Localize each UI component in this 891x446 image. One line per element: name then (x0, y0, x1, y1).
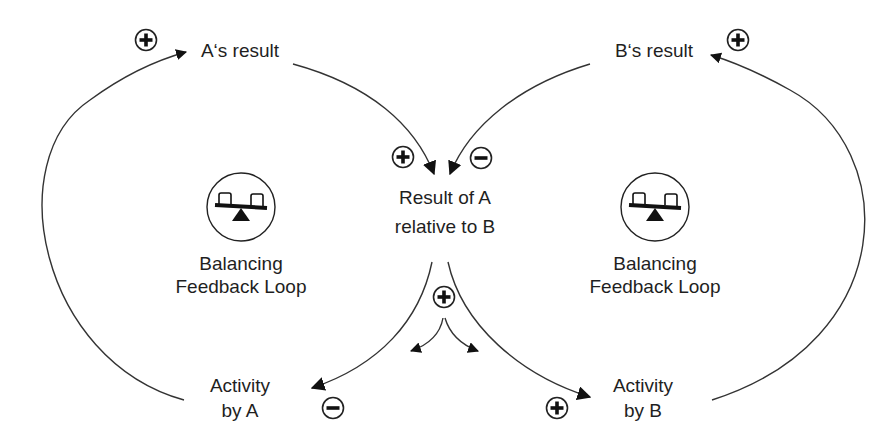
node-a-result: A‘s result (201, 40, 280, 61)
loop-left-line1: Balancing (199, 253, 282, 274)
seesaw-icon (207, 173, 275, 241)
node-relative-line1: Result of A (399, 187, 491, 208)
node-activity-b-line1: Activity (613, 375, 674, 396)
node-activity-a-line1: Activity (210, 375, 271, 396)
node-activity-b-line2: by B (624, 400, 662, 421)
loop-right-line2: Feedback Loop (590, 276, 721, 297)
node-relative-line2: relative to B (395, 216, 495, 237)
plus-icon (728, 30, 749, 51)
minus-icon (323, 398, 344, 419)
link-activity-b-to-b-result (711, 55, 865, 400)
plus-icon (547, 398, 568, 419)
plus-icon (434, 287, 455, 308)
seesaw-icon (621, 173, 689, 241)
node-b-result: B‘s result (615, 40, 694, 61)
causal-loop-diagram: A‘s result B‘s result Result of A relati… (0, 0, 891, 446)
fork-right-arrow (445, 318, 478, 351)
fork-left-arrow (411, 318, 443, 351)
node-activity-a-line2: by A (222, 400, 259, 421)
plus-icon (393, 147, 414, 168)
link-relative-to-activity-b (448, 262, 590, 397)
minus-icon (471, 148, 492, 169)
loop-left-line2: Feedback Loop (176, 276, 307, 297)
plus-icon (136, 30, 157, 51)
loop-right-line1: Balancing (613, 253, 696, 274)
link-relative-to-activity-a (312, 262, 432, 388)
link-activity-a-to-a-result (42, 52, 186, 400)
